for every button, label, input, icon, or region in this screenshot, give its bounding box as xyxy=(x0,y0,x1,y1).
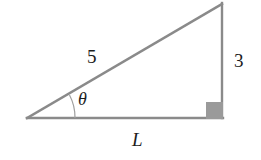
base-leg-label: L xyxy=(132,130,143,149)
right-triangle-figure: 5 3 L θ xyxy=(0,0,261,160)
angle-arc-icon xyxy=(70,95,76,118)
angle-theta-label: θ xyxy=(78,90,87,108)
vertical-leg-label: 3 xyxy=(234,51,244,70)
hypotenuse-line xyxy=(27,4,222,118)
hypotenuse-label: 5 xyxy=(87,47,97,66)
right-angle-marker-icon xyxy=(206,102,223,119)
triangle-graphic xyxy=(0,0,261,160)
